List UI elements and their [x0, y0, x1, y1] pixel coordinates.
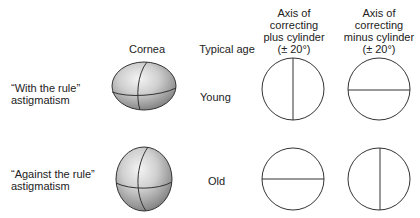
cornea-globe-against-the-rule [116, 147, 172, 211]
diagram-graphics [0, 0, 420, 218]
plus-cylinder-axis-row-2-horizontal-icon [262, 148, 324, 210]
plus-cylinder-axis-row-1-vertical-icon [262, 58, 324, 120]
minus-cylinder-axis-row-2-vertical-icon [348, 148, 410, 210]
cornea-globe-with-the-rule [112, 62, 176, 110]
minus-cylinder-axis-row-1-horizontal-icon [348, 58, 410, 120]
